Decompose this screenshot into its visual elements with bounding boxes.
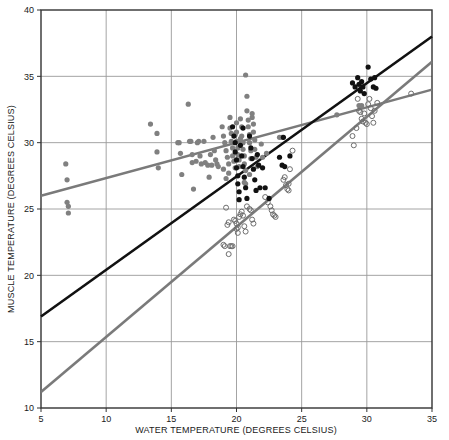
data-point bbox=[244, 196, 249, 201]
data-point bbox=[372, 75, 377, 80]
chart-canvas: 510152025303510152025303540 WATER TEMPER… bbox=[0, 0, 449, 440]
data-point bbox=[179, 172, 184, 177]
data-point bbox=[252, 177, 257, 182]
data-point bbox=[222, 140, 227, 145]
data-point bbox=[233, 149, 238, 154]
data-point bbox=[373, 86, 378, 91]
data-point bbox=[264, 151, 269, 156]
y-tick-label: 40 bbox=[24, 5, 34, 15]
data-point bbox=[259, 141, 264, 146]
data-point bbox=[156, 165, 161, 170]
data-point bbox=[235, 181, 240, 186]
data-point bbox=[334, 112, 339, 117]
y-tick-label: 30 bbox=[24, 138, 34, 148]
data-point bbox=[242, 180, 247, 185]
data-point bbox=[221, 167, 226, 172]
chart-background bbox=[0, 0, 449, 440]
data-point bbox=[282, 164, 287, 169]
data-point bbox=[247, 172, 252, 177]
data-point bbox=[193, 159, 198, 164]
data-point bbox=[66, 210, 71, 215]
data-point bbox=[263, 185, 268, 190]
data-point bbox=[251, 167, 256, 172]
data-point bbox=[225, 155, 230, 160]
data-point bbox=[239, 153, 244, 158]
x-axis-title: WATER TEMPERATURE (DEGREES CELSIUS) bbox=[135, 425, 337, 435]
data-point bbox=[251, 129, 256, 134]
data-point bbox=[190, 152, 195, 157]
data-point bbox=[366, 64, 371, 69]
data-point bbox=[239, 133, 244, 138]
data-point bbox=[255, 152, 260, 157]
data-point bbox=[246, 124, 251, 129]
data-point bbox=[207, 175, 212, 180]
data-point bbox=[251, 121, 256, 126]
data-point bbox=[248, 145, 253, 150]
x-tick-label: 5 bbox=[38, 414, 43, 424]
data-point bbox=[154, 131, 159, 136]
x-tick-label: 30 bbox=[362, 414, 372, 424]
data-point bbox=[237, 197, 242, 202]
x-tick-label: 25 bbox=[297, 414, 307, 424]
data-point bbox=[287, 153, 292, 158]
scatter-plot-figure: 510152025303510152025303540 WATER TEMPER… bbox=[0, 0, 449, 440]
y-tick-label: 35 bbox=[24, 72, 34, 82]
data-point bbox=[178, 151, 183, 156]
data-point bbox=[277, 155, 282, 160]
data-point bbox=[148, 121, 153, 126]
data-point bbox=[188, 139, 193, 144]
data-point bbox=[235, 173, 240, 178]
y-tick-label: 15 bbox=[24, 337, 34, 347]
data-point bbox=[216, 164, 221, 169]
data-point bbox=[257, 185, 262, 190]
data-point bbox=[177, 140, 182, 145]
data-point bbox=[238, 116, 243, 121]
data-point bbox=[230, 124, 235, 129]
y-tick-label: 25 bbox=[24, 204, 34, 214]
data-point bbox=[64, 177, 69, 182]
data-point bbox=[223, 148, 228, 153]
data-point bbox=[250, 156, 255, 161]
data-point bbox=[154, 149, 159, 154]
data-point bbox=[281, 135, 286, 140]
data-point bbox=[212, 148, 217, 153]
data-point bbox=[201, 139, 206, 144]
data-point bbox=[244, 108, 249, 113]
data-point bbox=[260, 165, 265, 170]
data-point bbox=[210, 135, 215, 140]
data-point bbox=[237, 189, 242, 194]
data-point bbox=[359, 103, 364, 108]
data-point bbox=[238, 143, 243, 148]
y-axis-title: MUSCLE TEMPERATURE (DEGREES CELSIUS) bbox=[6, 105, 16, 313]
x-tick-label: 15 bbox=[166, 414, 176, 424]
data-point bbox=[234, 165, 239, 170]
data-point bbox=[63, 161, 68, 166]
data-point bbox=[243, 72, 248, 77]
data-point bbox=[227, 115, 232, 120]
data-point bbox=[234, 157, 239, 162]
data-point bbox=[355, 75, 360, 80]
data-point bbox=[209, 163, 214, 168]
data-point bbox=[220, 124, 225, 129]
data-point bbox=[359, 79, 364, 84]
data-point bbox=[240, 164, 245, 169]
data-point bbox=[247, 133, 252, 138]
x-tick-label: 35 bbox=[427, 414, 437, 424]
data-point bbox=[231, 133, 236, 138]
data-point bbox=[233, 140, 238, 145]
x-tick-label: 20 bbox=[231, 414, 241, 424]
x-tick-label: 10 bbox=[101, 414, 111, 424]
y-tick-label: 20 bbox=[24, 271, 34, 281]
data-point bbox=[223, 176, 228, 181]
data-point bbox=[221, 133, 226, 138]
data-point bbox=[226, 161, 231, 166]
data-point bbox=[244, 94, 249, 99]
data-point bbox=[362, 91, 367, 96]
data-point bbox=[234, 120, 239, 125]
data-point bbox=[208, 152, 213, 157]
data-point bbox=[250, 115, 255, 120]
data-point bbox=[191, 187, 196, 192]
data-point bbox=[243, 185, 248, 190]
data-point bbox=[247, 140, 252, 145]
data-point bbox=[186, 102, 191, 107]
